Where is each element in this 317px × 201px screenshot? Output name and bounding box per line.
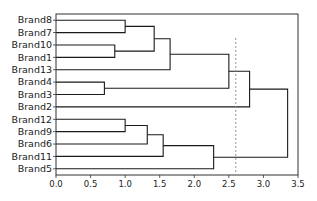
- dendrogram-link: [56, 20, 125, 32]
- leaf-label: Brand6: [18, 138, 52, 149]
- x-tick-label: 0.0: [49, 179, 63, 189]
- dendrogram-links: [56, 20, 288, 169]
- x-tick-label: 2.0: [188, 179, 202, 189]
- leaf-label: Brand2: [18, 101, 52, 112]
- dendrogram-link: [56, 146, 214, 169]
- leaf-label: Brand1: [18, 52, 52, 63]
- x-tick-label: 3.5: [291, 179, 305, 189]
- leaf-label: Brand13: [12, 64, 52, 75]
- x-axis-ticks: 0.00.51.01.52.02.53.03.5: [49, 175, 305, 189]
- leaf-label: Brand8: [18, 14, 52, 25]
- x-tick-label: 0.5: [84, 179, 98, 189]
- x-tick-label: 3.0: [257, 179, 271, 189]
- dendrogram-link: [214, 89, 288, 157]
- x-tick-label: 2.5: [222, 179, 236, 189]
- dendrogram-chart: Brand8Brand7Brand10Brand1Brand13Brand4Br…: [0, 0, 317, 201]
- dendrogram-link: [56, 125, 147, 144]
- dendrogram-link: [104, 54, 228, 88]
- dendrogram-link: [56, 45, 115, 57]
- leaf-label: Brand11: [12, 151, 52, 162]
- dendrogram-link: [115, 26, 154, 51]
- x-tick-label: 1.0: [118, 179, 132, 189]
- leaf-label: Brand9: [18, 126, 52, 137]
- x-tick-label: 1.5: [153, 179, 167, 189]
- leaf-label: Brand5: [18, 163, 52, 174]
- leaf-label: Brand12: [12, 114, 52, 125]
- leaf-label: Brand4: [18, 76, 52, 87]
- dendrogram-link: [56, 71, 250, 107]
- leaf-label: Brand7: [18, 27, 52, 38]
- leaf-label: Brand3: [18, 89, 52, 100]
- leaf-labels: Brand8Brand7Brand10Brand1Brand13Brand4Br…: [12, 14, 56, 174]
- leaf-label: Brand10: [12, 39, 52, 50]
- dendrogram-link: [56, 39, 170, 70]
- dendrogram-link: [56, 82, 104, 94]
- dendrogram-link: [56, 119, 125, 131]
